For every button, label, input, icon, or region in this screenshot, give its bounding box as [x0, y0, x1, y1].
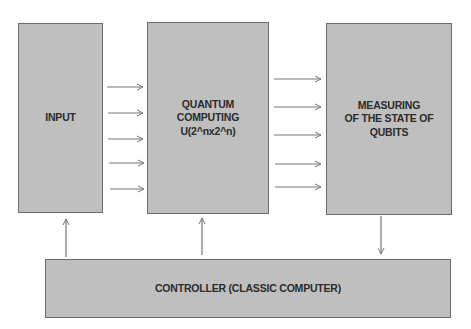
arrows-layer	[0, 0, 471, 329]
controller-feedback-arrows	[66, 216, 381, 257]
quantum-to-measuring-arrows	[274, 79, 321, 187]
input-to-quantum-arrows	[107, 87, 144, 189]
